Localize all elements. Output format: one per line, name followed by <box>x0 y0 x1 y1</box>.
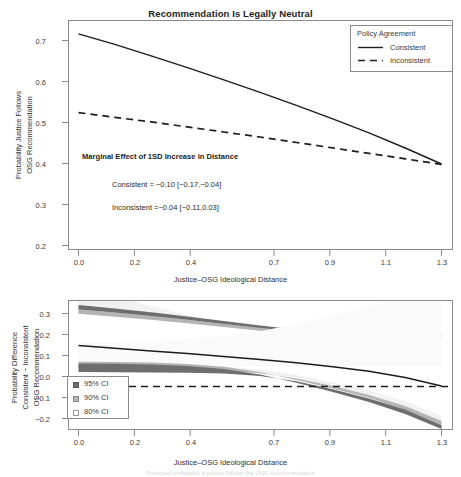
bottom-xtick-2: 0.4 <box>176 438 206 447</box>
bottom-xtick-0: 0.0 <box>64 438 94 447</box>
top-xtick-5: 1.1 <box>371 258 401 267</box>
bottom-xtick-3: 0.7 <box>259 438 289 447</box>
legend-title: Policy Agreement <box>357 29 415 38</box>
top-xtick-1: 0.2 <box>120 258 150 267</box>
annotation-consistent: Consistent = −0.10 [−0.17,−0.04] <box>112 180 221 189</box>
top-xtick-3: 0.7 <box>259 258 289 267</box>
top-xtick-2: 0.4 <box>176 258 206 267</box>
ci-80-swatch <box>73 410 79 416</box>
bottom-x-axis-title: Justice–OSG Ideological Distance <box>0 458 461 467</box>
ci-legend-entry-90[interactable]: 90% CI <box>84 393 109 402</box>
top-x-axis-title: Justice–OSG Ideological Distance <box>0 275 461 284</box>
top-xtick-6: 1.3 <box>427 258 457 267</box>
top-panel: Recommendation Is Legally Neutral Probab… <box>0 0 461 290</box>
bottom-xtick-6: 1.3 <box>427 438 457 447</box>
bottom-xtick-5: 1.1 <box>371 438 401 447</box>
figure-root: Recommendation Is Legally Neutral Probab… <box>0 0 461 477</box>
top-xtick-0: 0.0 <box>64 258 94 267</box>
ci-legend-entry-80[interactable]: 80% CI <box>84 407 109 416</box>
bottom-xtick-1: 0.2 <box>120 438 150 447</box>
caption-fragment: Predicted probability a justice follows … <box>0 470 461 477</box>
legend-entry-inconsistent[interactable]: Inconsistent <box>390 56 430 65</box>
bottom-panel: Probability Difference Consistent − Inco… <box>0 290 461 477</box>
annotation-inconsistent: Inconsistent =−0.04 [−0.11,0.03] <box>112 203 219 212</box>
bottom-xtick-4: 0.9 <box>315 438 345 447</box>
top-xtick-4: 0.9 <box>315 258 345 267</box>
ci-95-swatch <box>73 382 79 388</box>
legend-entry-consistent[interactable]: Consistent <box>390 43 425 52</box>
annotation-heading: Marginal Effect of 1SD Increase in Dista… <box>82 152 238 161</box>
ci-90-swatch <box>73 396 79 402</box>
ci-legend-entry-95[interactable]: 95% CI <box>84 379 109 388</box>
